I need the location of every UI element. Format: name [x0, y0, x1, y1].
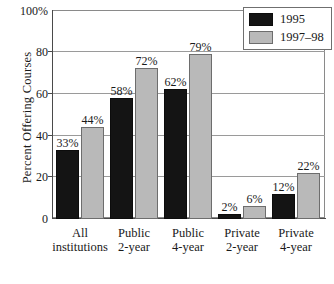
- bar-chart-figure: Percent Offering Courses 100% 80 60 40 2…: [0, 0, 334, 284]
- x-label-line1: Private: [256, 226, 334, 240]
- x-label-line2: 4-year: [256, 240, 334, 254]
- x-label-private-4-year: Private 4-year: [256, 226, 334, 254]
- legend-entry-1995[interactable]: 1995: [249, 12, 305, 27]
- y-axis-line: [52, 10, 53, 219]
- chart-legend: 1995 1997–98: [243, 7, 332, 50]
- y-tick-label-60: 60: [4, 88, 48, 100]
- y-tick-label-40: 40: [4, 130, 48, 142]
- bar-1995-private-2-year[interactable]: [218, 214, 241, 219]
- bar-1995-public-4-year[interactable]: [164, 89, 187, 219]
- legend-label-1997-98: 1997–98: [280, 31, 324, 44]
- legend-swatch-black-icon: [249, 13, 273, 26]
- bar-1997-98-public-2-year[interactable]: [135, 68, 158, 219]
- legend-swatch-gray-icon: [249, 31, 273, 44]
- bar-1995-private-4-year[interactable]: [272, 194, 295, 219]
- bar-1995-all-institutions[interactable]: [56, 150, 79, 219]
- bar-1997-98-all-institutions[interactable]: [81, 127, 104, 219]
- y-tick-label-20: 20: [4, 171, 48, 183]
- gridline-80: [53, 51, 325, 52]
- legend-entry-1997-98[interactable]: 1997–98: [249, 30, 324, 45]
- y-tick-label-80: 80: [4, 46, 48, 58]
- bar-1995-public-2-year[interactable]: [110, 98, 133, 219]
- y-tick-label-0: 0: [4, 213, 48, 225]
- bar-1997-98-private-2-year[interactable]: [243, 206, 266, 219]
- bar-1997-98-public-4-year[interactable]: [189, 54, 212, 219]
- legend-label-1995: 1995: [280, 13, 305, 26]
- bar-1997-98-private-4-year[interactable]: [297, 173, 320, 219]
- y-tick-label-100: 100%: [4, 5, 48, 17]
